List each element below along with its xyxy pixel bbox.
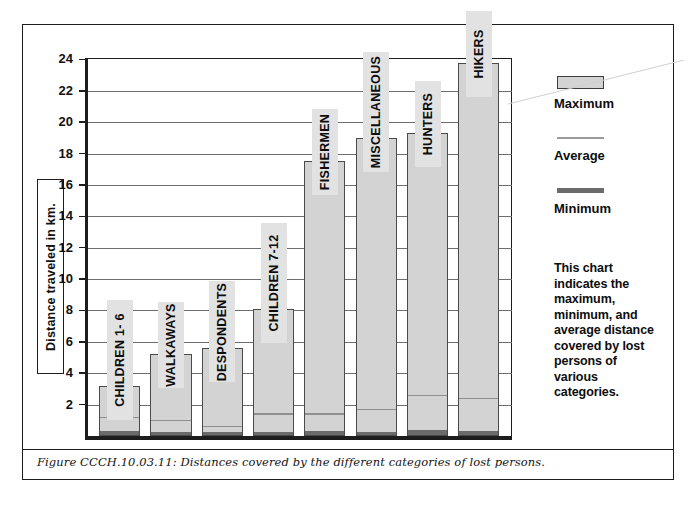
chart-bar-label-text: DESPONDENTS [215,282,229,380]
y-tick-mark [79,247,88,249]
figure-caption: Figure CCCH.10.03.11: Distances covered … [37,455,637,469]
y-tick-mark [79,121,88,123]
chart-bar-label-text: CHILDREN 7-12 [267,235,281,332]
chart-bar-label-text: WALKAWAYS [164,304,178,388]
chart-bar-average-line [151,420,190,421]
caption-divider [23,449,673,450]
chart-bar-label: WALKAWAYS [158,302,184,388]
chart-bar-minimum-band [254,432,293,435]
chart-bar-label: MISCELLANEOUS [363,52,389,172]
legend-label-minimum: Minimum [554,201,611,216]
y-tick-label: 16 [43,177,73,192]
chart-bar-average-line [254,413,293,414]
y-tick-label: 8 [43,302,73,317]
chart-bar-average-line [408,395,447,396]
chart-bar-average-line [305,413,344,414]
chart-bar [407,133,448,436]
y-tick-label: 24 [43,51,73,66]
chart-bar-average-line [203,426,242,427]
legend-swatch-minimum [557,188,604,193]
gridline [88,91,512,92]
y-tick-label: 12 [43,240,73,255]
chart-bar [304,161,345,436]
chart-bar-label: FISHERMEN [312,109,338,195]
gridline [88,310,512,311]
chart-bar [356,138,397,436]
y-tick-label: 6 [43,334,73,349]
chart-bar-minimum-band [203,432,242,435]
legend-label-maximum: Maximum [554,96,614,111]
chart-bar-label-text: HIKERS [472,29,486,78]
y-tick-mark [79,341,88,343]
legend-label-average: Average [554,148,605,163]
chart-bar-minimum-band [459,431,498,435]
chart-description-text: This chart indicates the maximum, minimu… [554,261,664,401]
y-tick-label: 4 [43,365,73,380]
figure-frame: Distance traveled in km. 246810121416182… [22,24,674,480]
chart-bar-minimum-band [151,432,190,435]
y-tick-mark [79,153,88,155]
chart-bar-minimum-band [305,431,344,435]
y-tick-mark [79,310,88,312]
y-tick-label: 18 [43,146,73,161]
y-tick-mark [79,216,88,218]
chart-bar-label: CHILDREN 7-12 [261,223,287,343]
chart-bar-label: CHILDREN 1- 6 [107,300,133,420]
chart-bar-minimum-band [408,430,447,435]
chart-plot-area: 24681012141618202224 CHILDREN 1- 6WALKAW… [85,58,512,440]
chart-bar-label-text: MISCELLANEOUS [369,56,383,168]
y-tick-label: 22 [43,83,73,98]
chart-bar-label: DESPONDENTS [209,281,235,382]
chart-bar-label: HIKERS [466,11,492,97]
chart-bar [458,63,499,436]
legend-swatch-average [557,137,604,139]
chart-bar-minimum-band [357,432,396,435]
y-tick-mark [79,278,88,280]
chart-legend-panel: Maximum Average Minimum This chart indic… [528,58,661,440]
y-tick-mark [79,59,88,61]
chart-bar-label-text: HUNTERS [421,93,435,156]
chart-bar-average-line [459,398,498,399]
legend-swatch-maximum [557,76,604,89]
gridline [88,154,512,155]
chart-bar-average-line [357,409,396,410]
chart-bar-label: HUNTERS [415,81,441,167]
gridline [88,279,512,280]
chart-bar-minimum-band [100,431,139,435]
chart-bar-label-text: CHILDREN 1- 6 [113,313,127,407]
gridline [88,342,512,343]
y-tick-label: 14 [43,208,73,223]
figure-page: Distance traveled in km. 246810121416182… [0,0,696,508]
chart-bar-label-text: FISHERMEN [318,114,332,190]
y-tick-label: 20 [43,114,73,129]
y-tick-mark [79,372,88,374]
gridline [88,216,512,217]
gridline [88,185,512,186]
gridline [88,248,512,249]
y-tick-label: 10 [43,271,73,286]
y-tick-label: 2 [43,397,73,412]
gridline [88,122,512,123]
y-tick-mark [79,404,88,406]
y-tick-mark [79,184,88,186]
y-tick-mark [79,90,88,92]
